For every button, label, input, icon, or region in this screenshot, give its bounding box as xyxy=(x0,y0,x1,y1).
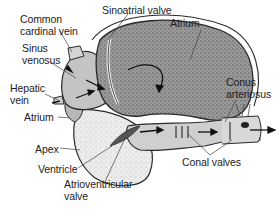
label-hepatic-vein-line1: Hepatic xyxy=(10,82,45,94)
label-atrium-left: Atrium xyxy=(24,111,54,123)
label-apex: Apex xyxy=(35,143,59,155)
label-sinoatrial-valve: Sinoatrial valve xyxy=(102,4,172,16)
label-hepatic-vein-line2: vein xyxy=(10,94,29,106)
hepatic-vein-stub xyxy=(54,96,64,104)
label-atrioventricular-valve-line1: Atrioventricular xyxy=(64,178,132,190)
label-common-cardinal-vein-line1: Common xyxy=(20,13,62,25)
label-common-cardinal-vein-line2: cardinal vein xyxy=(20,25,78,37)
label-conus-arteriosus-line2: arteriosus xyxy=(226,88,271,100)
label-sinus-venosus-line2: venosus xyxy=(22,54,60,66)
label-ventricle: Ventricle xyxy=(38,163,77,175)
label-conus-arteriosus-line1: Conus xyxy=(226,76,256,88)
label-atrioventricular-valve-line2: valve xyxy=(64,190,88,202)
label-sinus-venosus-line1: Sinus xyxy=(22,42,48,54)
atrium-shape xyxy=(96,20,253,120)
label-conal-valves: Conal valves xyxy=(182,156,241,168)
label-atrium-top: Atrium xyxy=(170,17,200,29)
